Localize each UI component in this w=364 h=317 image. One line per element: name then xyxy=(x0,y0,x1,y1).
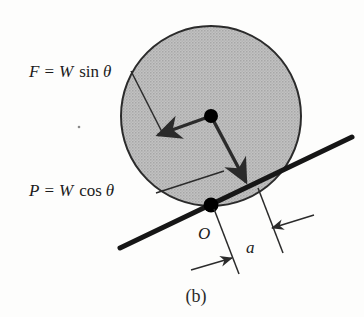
figure-caption: (b) xyxy=(186,286,207,307)
label-force-F-angle: θ xyxy=(103,62,111,81)
label-force-P-angle: θ xyxy=(106,181,114,200)
label-force-F-weight: W xyxy=(59,62,75,81)
svg-text:P=Wcosθ: P=Wcosθ xyxy=(28,181,114,200)
label-contact-point-O: O xyxy=(198,224,210,243)
physics-free-body-diagram: F=Wsinθ P=Wcosθ O a (b) xyxy=(0,0,364,317)
svg-text:F=Wsinθ: F=Wsinθ xyxy=(28,62,111,81)
label-force-P: P=Wcosθ xyxy=(28,181,114,200)
label-force-P-trig: cos xyxy=(79,181,102,200)
dimension-arrow-left xyxy=(191,258,232,270)
label-force-P-equals: = xyxy=(44,181,54,200)
dimension-arrow-right xyxy=(272,215,314,228)
dimension-extension-line-right xyxy=(258,188,283,253)
label-force-P-weight: W xyxy=(59,181,75,200)
label-force-F-lhs: F xyxy=(28,62,40,81)
label-force-F-trig: sin xyxy=(79,62,99,81)
scan-speck xyxy=(78,126,81,129)
figure-panel-b: F=Wsinθ P=Wcosθ O a (b) xyxy=(0,0,364,317)
label-force-F: F=Wsinθ xyxy=(28,62,111,81)
center-of-mass-dot xyxy=(204,109,218,123)
label-force-F-equals: = xyxy=(44,62,54,81)
dimension-extension-line-left xyxy=(214,209,239,274)
label-force-P-lhs: P xyxy=(28,181,39,200)
contact-point-dot xyxy=(204,198,219,213)
label-dimension-a: a xyxy=(246,238,255,257)
